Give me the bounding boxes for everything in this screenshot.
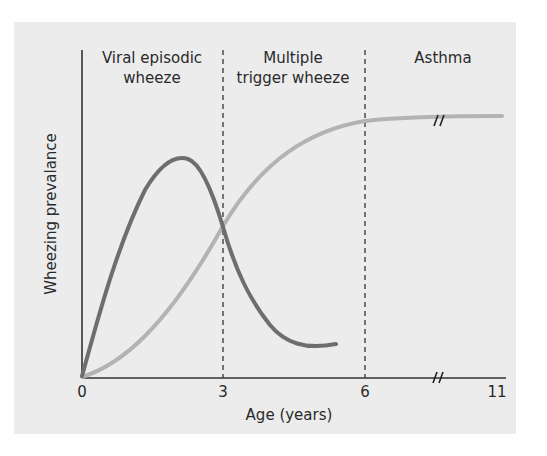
region-label-viral-line2: wheeze	[123, 69, 180, 87]
x-axis-title: Age (years)	[246, 406, 333, 424]
x-tick-6: 6	[360, 383, 370, 401]
region-label-viral-line1: Viral episodic	[102, 49, 202, 67]
x-tick-0: 0	[77, 383, 87, 401]
x-tick-11: 11	[487, 383, 506, 401]
region-label-multiple-line2: trigger wheeze	[237, 69, 350, 87]
viral-episodic-curve	[82, 158, 336, 376]
y-axis-title: Wheezing prevalance	[42, 133, 60, 295]
region-label-multiple-line1: Multiple	[263, 49, 323, 67]
asthma-curve	[82, 116, 502, 377]
chart-svg: Viral episodic wheeze Multiple trigger w…	[0, 0, 547, 456]
x-tick-3: 3	[218, 383, 228, 401]
region-label-asthma: Asthma	[414, 49, 471, 67]
